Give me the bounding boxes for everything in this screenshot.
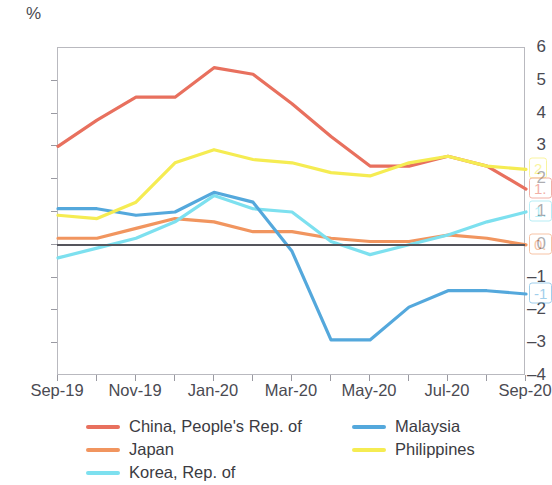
x-axis-tick-label: May-20	[341, 381, 396, 400]
legend-swatch-icon	[352, 448, 386, 452]
endpoint-label-japan: 0.	[529, 233, 552, 254]
x-axis-tick-label: Jan-20	[188, 381, 238, 400]
legend-item[interactable]: Japan	[86, 438, 302, 461]
legend-item-label: Malaysia	[395, 417, 460, 436]
series-line	[58, 68, 526, 189]
zero-baseline	[57, 244, 525, 246]
series-line	[58, 192, 526, 340]
endpoint-label-philippines: 2	[529, 158, 547, 179]
plot-area	[57, 47, 525, 375]
x-axis-tick-label: Sep-20	[498, 381, 551, 400]
legend-column-left: China, People's Rep. ofJapanKorea, Rep. …	[86, 415, 302, 484]
series-lines	[58, 48, 526, 376]
chart-legend: China, People's Rep. ofJapanKorea, Rep. …	[0, 415, 546, 485]
legend-item[interactable]: Malaysia	[352, 415, 475, 438]
x-axis-tick-label: Jul-20	[425, 381, 470, 400]
x-axis-tick-label: Nov-19	[108, 381, 161, 400]
legend-item-label: China, People's Rep. of	[129, 417, 302, 436]
legend-item-label: Korea, Rep. of	[129, 463, 235, 482]
endpoint-label-china: 1.	[529, 178, 552, 199]
x-axis-tick-label: Mar-20	[265, 381, 317, 400]
legend-column-right: MalaysiaPhilippines	[352, 415, 475, 461]
legend-item[interactable]: Philippines	[352, 438, 475, 461]
legend-swatch-icon	[86, 425, 120, 429]
legend-swatch-icon	[86, 471, 120, 475]
series-line	[58, 150, 526, 219]
legend-item-label: Philippines	[395, 440, 475, 459]
legend-swatch-icon	[352, 425, 386, 429]
legend-item[interactable]: China, People's Rep. of	[86, 415, 302, 438]
endpoint-label-korea: 1.	[529, 201, 552, 222]
legend-swatch-icon	[86, 448, 120, 452]
legend-item-label: Japan	[129, 440, 174, 459]
x-axis-tick-label: Sep-19	[30, 381, 83, 400]
endpoint-label-malaysia: -1	[529, 283, 552, 304]
y-axis-unit-label: %	[26, 4, 42, 24]
legend-item[interactable]: Korea, Rep. of	[86, 461, 302, 484]
